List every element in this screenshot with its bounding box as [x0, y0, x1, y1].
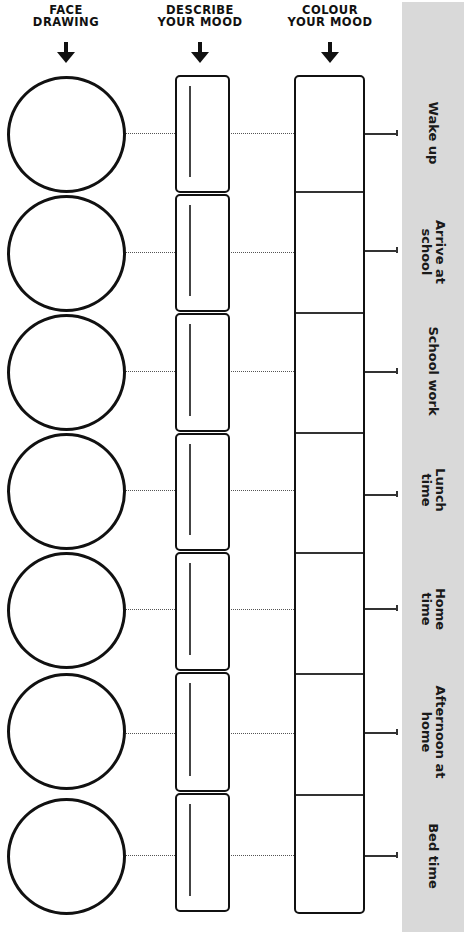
time-label-text: Lunch [433, 468, 447, 512]
writing-line [189, 86, 191, 177]
face-drawing-circle[interactable] [7, 673, 126, 790]
time-label-lunch-time: Lunchtime [402, 430, 464, 550]
time-label-wake-up: Wake up [402, 73, 464, 193]
time-label-text: Wake up [426, 102, 440, 165]
header-colour-line2: YOUR MOOD [260, 16, 400, 28]
writing-line [189, 563, 191, 655]
time-label-school-work: School work [402, 311, 464, 431]
header-colour-mood: COLOUR YOUR MOOD [260, 4, 400, 28]
time-label-text: Home [433, 588, 447, 630]
row-divider [296, 794, 363, 796]
row-divider [296, 312, 363, 314]
writing-line [189, 205, 191, 296]
time-label-text: time [419, 468, 433, 512]
header-describe-line2: YOUR MOOD [130, 16, 270, 28]
describe-mood-box[interactable] [175, 75, 230, 193]
time-label-text: school [419, 220, 433, 284]
time-label-text: School work [426, 326, 440, 415]
face-drawing-circle[interactable] [7, 433, 126, 550]
header-face-line2: DRAWING [0, 16, 136, 28]
time-label-text: Afternoon at [433, 685, 447, 778]
time-label-text: home [419, 685, 433, 778]
header-face-drawing: FACE DRAWING [0, 4, 136, 28]
time-label-home-time: Hometime [402, 549, 464, 669]
time-label-bed-time: Bed time [402, 795, 464, 917]
writing-line [189, 444, 191, 535]
colour-mood-column [294, 75, 365, 914]
row-divider [296, 552, 363, 554]
time-label-text: Arrive at [433, 220, 447, 284]
arrow-down-icon [56, 42, 76, 64]
header-describe-mood: DESCRIBE YOUR MOOD [130, 4, 270, 28]
face-drawing-circle[interactable] [7, 76, 126, 193]
writing-line [189, 324, 191, 416]
time-label-text: Bed time [426, 823, 440, 889]
writing-line [189, 804, 191, 896]
describe-mood-box[interactable] [175, 672, 230, 792]
face-drawing-circle[interactable] [7, 314, 126, 431]
describe-mood-box[interactable] [175, 793, 230, 912]
arrow-down-icon [320, 42, 340, 64]
row-divider [296, 191, 363, 193]
row-divider [296, 432, 363, 434]
row-divider [296, 673, 363, 675]
time-label-text: time [419, 588, 433, 630]
arrow-down-icon [190, 42, 210, 64]
face-drawing-circle[interactable] [7, 552, 126, 669]
face-drawing-circle[interactable] [7, 195, 126, 312]
writing-line [189, 683, 191, 776]
describe-mood-box[interactable] [175, 194, 230, 312]
time-label-afternoon-home: Afternoon athome [402, 670, 464, 794]
describe-mood-box[interactable] [175, 433, 230, 551]
face-drawing-circle[interactable] [7, 798, 126, 915]
time-label-arrive-school: Arrive atschool [402, 192, 464, 312]
describe-mood-box[interactable] [175, 313, 230, 432]
describe-mood-box[interactable] [175, 552, 230, 671]
